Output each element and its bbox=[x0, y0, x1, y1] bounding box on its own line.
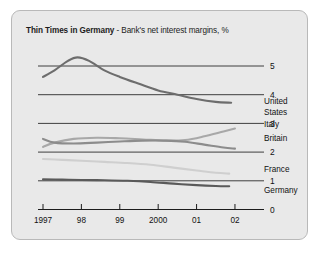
series-label-united-states: States bbox=[264, 108, 287, 117]
series-label-france: France bbox=[264, 165, 290, 174]
y-tick-label-5: 5 bbox=[270, 61, 275, 71]
x-axis-group bbox=[38, 204, 264, 210]
x-tick-label-01: 01 bbox=[192, 216, 202, 225]
x-tick-label-02: 02 bbox=[230, 216, 240, 225]
series-lines-group bbox=[43, 57, 235, 186]
chart-figure: Thin Times in Germany - Bank's net inter… bbox=[0, 0, 321, 255]
series-label-britain: Britain bbox=[264, 134, 288, 143]
x-tick-label-1997: 1997 bbox=[34, 216, 53, 225]
series-line-britain bbox=[43, 139, 235, 149]
y-tick-label-1: 1 bbox=[270, 176, 275, 186]
gridlines-group bbox=[38, 66, 264, 181]
x-tick-labels-group: 1997989920000102 bbox=[34, 216, 240, 225]
series-label-united-states: United bbox=[264, 97, 288, 106]
series-line-france bbox=[43, 159, 229, 174]
x-tick-label-98: 98 bbox=[77, 216, 87, 225]
x-tick-label-99: 99 bbox=[115, 216, 125, 225]
series-label-germany: Germany bbox=[264, 186, 299, 195]
chart-plot-area: 012345 1997989920000102 UnitedStatesItal… bbox=[0, 0, 321, 255]
x-tick-label-2000: 2000 bbox=[149, 216, 168, 225]
y-tick-label-2: 2 bbox=[270, 147, 275, 157]
y-tick-label-0: 0 bbox=[270, 205, 275, 215]
series-label-italy: Italy bbox=[264, 120, 280, 129]
series-line-united-states bbox=[43, 57, 231, 102]
